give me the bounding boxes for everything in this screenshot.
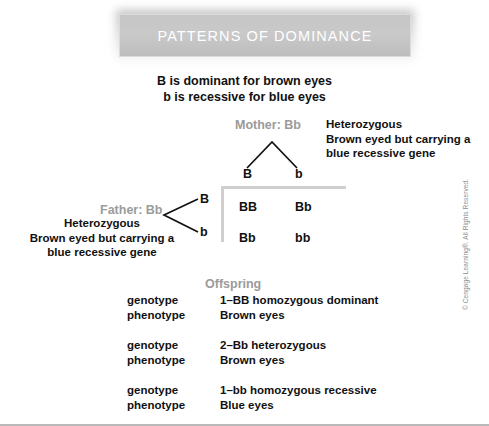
mother-allele-right: b: [295, 167, 303, 181]
punnett-cell-bb-hetero-2: Bb: [239, 231, 256, 245]
father-note-line-3: blue recessive gene: [0, 245, 204, 260]
father-label: Father: Bb: [100, 203, 163, 217]
figure-patterns-of-dominance: PATTERNS OF DOMINANCE B is dominant for …: [0, 0, 489, 426]
offspring-genotype-row: genotype 2–Bb heterozygous: [127, 338, 326, 353]
offspring-phenotype-value-3: Blue eyes: [220, 398, 377, 413]
offspring-group-1: genotype 1–BB homozygous dominant phenot…: [127, 293, 378, 323]
subtitle-line-2: b is recessive for blue eyes: [0, 89, 489, 105]
father-allele-top: B: [200, 192, 209, 206]
offspring-group-3: genotype 1–bb homozygous recessive pheno…: [127, 383, 377, 413]
father-note-line-2: Brown eyed but carrying a: [0, 231, 204, 246]
punnett-top-rule: [222, 186, 346, 189]
offspring-genotype-key-2: genotype: [127, 338, 220, 353]
mother-allele-left: B: [243, 167, 252, 181]
copyright-notice: © Cengage Learning®. All Rights Reserved…: [462, 170, 469, 310]
offspring-genotype-value-2: 2–Bb heterozygous: [220, 338, 326, 353]
father-note: Heterozygous Brown eyed but carrying a b…: [0, 216, 204, 260]
punnett-cell-bb-dominant: BB: [239, 200, 257, 214]
offspring-genotype-value-1: 1–BB homozygous dominant: [220, 293, 378, 308]
offspring-genotype-key-3: genotype: [127, 383, 220, 398]
punnett-cell-bb-recessive: bb: [295, 231, 310, 245]
offspring-phenotype-key-3: phenotype: [127, 398, 220, 413]
offspring-phenotype-row: phenotype Brown eyes: [127, 308, 378, 323]
offspring-genotype-row: genotype 1–BB homozygous dominant: [127, 293, 378, 308]
offspring-genotype-key-1: genotype: [127, 293, 220, 308]
offspring-title: Offspring: [205, 277, 261, 291]
offspring-phenotype-value-1: Brown eyes: [220, 308, 378, 323]
subtitle-block: B is dominant for brown eyes b is recess…: [0, 73, 489, 105]
offspring-phenotype-row: phenotype Blue eyes: [127, 398, 377, 413]
offspring-genotype-row: genotype 1–bb homozygous recessive: [127, 383, 377, 398]
father-note-line-1: Heterozygous: [0, 216, 204, 231]
mother-note-line-1: Heterozygous: [326, 117, 470, 132]
title-banner: PATTERNS OF DOMINANCE: [119, 14, 411, 57]
subtitle-line-1: B is dominant for brown eyes: [0, 73, 489, 89]
mother-label: Mother: Bb: [235, 118, 301, 132]
banner-title: PATTERNS OF DOMINANCE: [157, 28, 372, 44]
offspring-phenotype-key-1: phenotype: [127, 308, 220, 323]
punnett-left-rule: [221, 186, 224, 242]
offspring-group-2: genotype 2–Bb heterozygous phenotype Bro…: [127, 338, 326, 368]
mother-note: Heterozygous Brown eyed but carrying a b…: [326, 117, 470, 161]
mother-note-line-2: Brown eyed but carrying a: [326, 132, 470, 147]
mother-note-line-3: blue recessive gene: [326, 146, 470, 161]
offspring-phenotype-value-2: Brown eyes: [220, 353, 326, 368]
offspring-genotype-value-3: 1–bb homozygous recessive: [220, 383, 377, 398]
punnett-cell-bb-hetero-1: Bb: [295, 200, 312, 214]
offspring-phenotype-key-2: phenotype: [127, 353, 220, 368]
offspring-phenotype-row: phenotype Brown eyes: [127, 353, 326, 368]
